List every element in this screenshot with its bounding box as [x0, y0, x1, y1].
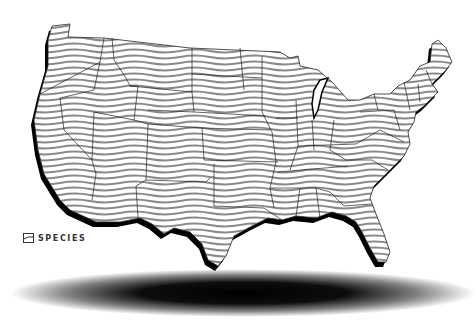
wavy-hatch-swatch-icon: [23, 233, 34, 243]
legend-label: SPECIES: [38, 234, 86, 243]
us-map: [0, 0, 476, 328]
ground-shadow: [11, 269, 475, 317]
legend: SPECIES: [23, 233, 86, 243]
